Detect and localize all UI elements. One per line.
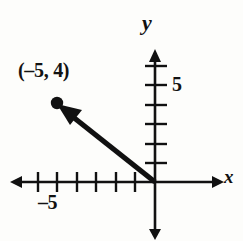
y-axis-label: y xyxy=(142,12,152,34)
point-coordinate-label: (–5, 4) xyxy=(18,60,69,80)
y-axis-up-arrowhead xyxy=(149,49,161,62)
x-axis-right-arrowhead xyxy=(212,176,224,188)
y-axis-tick-label-5: 5 xyxy=(172,74,182,94)
x-axis-left-arrowhead xyxy=(10,176,22,188)
vector-shaft xyxy=(68,113,155,182)
x-axis-tick-label-negative-5: –5 xyxy=(38,192,57,212)
vector-plot-figure: y x 5 –5 (–5, 4) xyxy=(0,0,243,241)
vector-arrow xyxy=(57,104,155,182)
y-axis-down-arrowhead xyxy=(149,229,161,240)
plotted-point-dot xyxy=(51,97,63,109)
x-axis-label: x xyxy=(224,167,234,186)
coordinate-plane-svg xyxy=(0,0,243,241)
